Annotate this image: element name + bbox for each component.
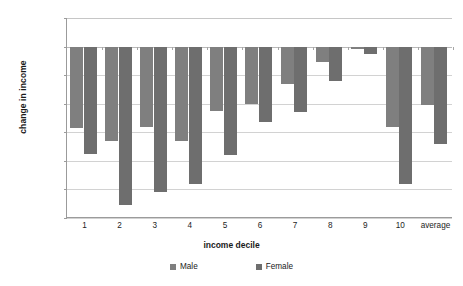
bar-group [383,18,418,217]
bar-female-7 [294,47,307,113]
bar-male-5 [210,47,223,111]
x-tick-mark [453,47,454,50]
bar-male-6 [245,47,258,104]
legend-item-male: Male [170,262,198,271]
plot-area: £100£0-£100-£200-£300-£400-£500-£6001234… [66,18,452,218]
bar-male-8 [316,47,329,63]
chart-legend: Male Female [0,262,463,271]
bar-group [137,18,172,217]
bar-female-8 [329,47,342,81]
bar-female-2 [119,47,132,206]
bar-male-10 [386,47,399,127]
legend-swatch-female-icon [256,264,262,270]
legend-swatch-male-icon [170,264,176,270]
x-tick-label-average: average [405,221,463,230]
bar-group [172,18,207,217]
bar-female-1 [84,47,97,154]
bar-male-4 [175,47,188,141]
bar-male-7 [281,47,294,84]
y-tick-mark [64,218,67,219]
legend-item-female: Female [256,262,293,271]
bar-group [207,18,242,217]
bar-male-1 [70,47,83,128]
bar-female-average [434,47,447,144]
bar-female-4 [189,47,202,184]
bar-chart: change in income £100£0-£100-£200-£300-£… [0,0,463,286]
legend-label-male: Male [180,262,198,271]
bar-male-3 [140,47,153,127]
x-axis-title: income decile [0,240,463,250]
legend-label-female: Female [266,262,293,271]
bar-male-9 [351,47,364,49]
bar-female-5 [224,47,237,155]
bar-group [278,18,313,217]
bar-group [418,18,453,217]
bar-male-average [421,47,434,106]
bar-group [242,18,277,217]
bar-group [348,18,383,217]
bar-female-10 [399,47,412,184]
bar-group [102,18,137,217]
bar-group [313,18,348,217]
y-axis-title: change in income [18,27,28,167]
bar-group [67,18,102,217]
gridline [67,218,452,219]
bar-male-2 [105,47,118,141]
bar-female-3 [154,47,167,193]
bar-female-9 [364,47,377,54]
bar-female-6 [259,47,272,123]
